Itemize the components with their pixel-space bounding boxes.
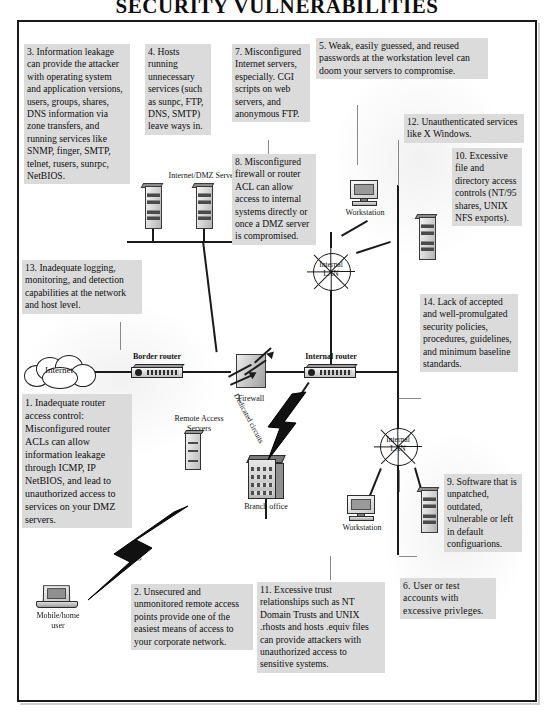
callout-8: 8. Misconfigured firewall or router ACL … bbox=[232, 154, 316, 245]
callout-5: 5. Weak, easily guessed, and reused pass… bbox=[316, 38, 488, 79]
mobile-home-user-label-line1: Mobile/home bbox=[36, 611, 79, 620]
callout-13: 13. Inadequate logging, monitoring, and … bbox=[22, 260, 142, 314]
leader-line-callout6 bbox=[399, 556, 417, 557]
callout-6: 6. User or test accounts with excessive … bbox=[400, 578, 496, 619]
leader-line-callout13 bbox=[120, 322, 121, 350]
callout-2: 2. Unsecured and unmonitored remote acce… bbox=[131, 584, 253, 650]
internal-lan-bottom-label-line1: Internal bbox=[386, 435, 410, 444]
border-router-to-firewall-line bbox=[183, 371, 231, 373]
workstation-bottom-icon bbox=[345, 495, 379, 523]
leader-line-callout11 bbox=[330, 556, 331, 580]
callout-1: 1. Inadequate router access control: Mis… bbox=[22, 394, 132, 528]
callout-9: 9. Software that is unpatched, outdated,… bbox=[444, 474, 522, 552]
callout-4: 4. Hosts running unnecessary services (s… bbox=[145, 44, 211, 135]
dedicated-circuits-bolt-icon bbox=[258, 390, 314, 462]
internal-server-bottom-icon bbox=[418, 487, 440, 533]
lan-top-riser bbox=[330, 232, 332, 248]
internet-to-border-router-line bbox=[93, 371, 131, 373]
dmz-server-icon bbox=[142, 183, 164, 229]
workstation-top-label: Workstation bbox=[332, 208, 398, 218]
leader-line-callout9 bbox=[399, 470, 400, 492]
mobile-home-user-label: Mobile/home user bbox=[22, 611, 94, 630]
page-title: SECURITY VULNERABILITIES bbox=[0, 0, 554, 16]
firewall-icon bbox=[228, 350, 274, 392]
internal-lan-top-icon: InternalLAN bbox=[304, 248, 358, 294]
internal-lan-bottom-label-line2: LAN bbox=[390, 444, 406, 453]
internal-lan-bottom-icon: InternalLAN bbox=[371, 423, 425, 469]
security-vulnerabilities-diagram-page: SECURITY VULNERABILITIES bbox=[0, 0, 554, 715]
border-router-icon bbox=[131, 364, 183, 379]
callout-11: 11. Excessive trust relationships such a… bbox=[257, 582, 385, 673]
callout-10: 10. Excessive file and directory access … bbox=[452, 148, 522, 226]
internet-cloud-label: Internet bbox=[22, 365, 96, 375]
callout-3: 3. Information leakage can provide the a… bbox=[24, 44, 130, 184]
internet-cloud-icon: Internet bbox=[22, 354, 96, 388]
branch-office-label: Branch office bbox=[228, 502, 304, 512]
dmz-server-icon bbox=[193, 183, 215, 229]
callout-12: 12. Unauthenticated services like X Wind… bbox=[404, 114, 524, 143]
remote-access-servers-label: Remote Access Servers bbox=[160, 414, 238, 433]
mobile-home-user-laptop-icon bbox=[36, 585, 78, 611]
ras-label-line1: Remote Access bbox=[174, 414, 223, 423]
internal-router-to-trunk-line bbox=[356, 371, 398, 373]
mobile-home-user-label-line2: user bbox=[51, 621, 64, 630]
internal-server-top-icon bbox=[416, 214, 438, 260]
internal-router-icon bbox=[304, 364, 356, 379]
leader-line-callout14 bbox=[399, 398, 421, 399]
dmz-server-drop bbox=[152, 228, 154, 242]
callout-7: 7. Misconfigured Internet servers, espec… bbox=[232, 44, 310, 122]
internal-router-label: Internal router bbox=[292, 352, 370, 362]
workstation-bottom-label: Workstation bbox=[329, 523, 395, 533]
internal-lan-top-label-line1: Internal bbox=[319, 260, 343, 269]
ras-label-line2: Servers bbox=[187, 424, 211, 433]
leader-line-callout12 bbox=[398, 140, 399, 186]
remote-access-server-icon bbox=[185, 430, 205, 470]
callout-14: 14. Lack of accepted and well-promulgate… bbox=[420, 294, 518, 372]
internal-backbone-line bbox=[397, 185, 399, 555]
border-router-label: Border router bbox=[118, 352, 196, 362]
workstation-top-icon bbox=[348, 180, 382, 208]
leader-line-callout5 bbox=[357, 105, 358, 165]
internal-lan-top-label-line2: LAN bbox=[323, 269, 339, 278]
